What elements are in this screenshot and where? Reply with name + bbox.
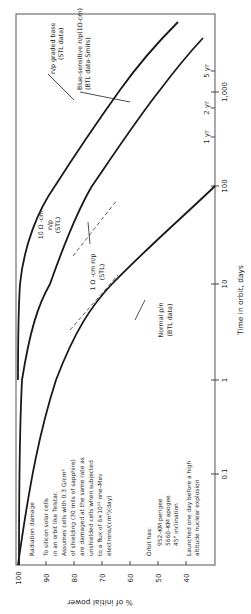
arrow-blue (80, 92, 130, 102)
label-graded-1: n/p graded base (49, 22, 57, 74)
radiation-line: are damaged at the same rate as (79, 457, 86, 556)
radiation-line: in an orbit like Telstar. (52, 491, 58, 556)
curve-1ohm-np (19, 38, 203, 565)
x-tick-10: 10 (221, 280, 229, 289)
x-tick-labels: 0.1 1 10 100 1,000 1 yr 2 yr 5 yr (203, 64, 229, 480)
radiation-line: of shielding (30 mils of sapphire) (70, 459, 77, 556)
orbit-line: 45° inclination (173, 503, 179, 546)
x-tick-1: 1 (221, 378, 229, 382)
radiation-notes: Radiation damage To silicon solar cells … (29, 457, 201, 557)
curve-10ohm-np (18, 22, 178, 380)
y-tick-70: 70 (99, 574, 107, 583)
y-axis (46, 561, 186, 565)
orbit-title: Orbit has: (146, 527, 152, 556)
label-10ohm-3: (STL) (54, 217, 61, 233)
x-tick-2yr: 2 yr (203, 101, 211, 115)
arrow-graded (48, 74, 74, 100)
arrow-normal (135, 300, 145, 320)
orbit-line: 952–KM perigee (157, 498, 164, 546)
y-tick-100: 100 (15, 571, 23, 584)
y-tick-90: 90 (43, 574, 51, 583)
x-tick-5yr: 5 yr (203, 64, 211, 78)
label-1ohm-1: 1 Ω -cm n/p (89, 254, 97, 291)
label-normal-2: (BTL data) (166, 304, 173, 337)
chart-canvas: 0.1 1 10 100 1,000 1 yr 2 yr 5 yr Time i… (0, 0, 251, 614)
y-tick-80: 80 (71, 574, 79, 583)
x-tick-0.1: 0.1 (221, 468, 229, 479)
label-1ohm-2: (STL) (98, 264, 105, 280)
orbit-line: 5660–KM apogee (165, 495, 172, 546)
radiation-line: to a flux of 6×10¹² one–Mev (97, 473, 103, 556)
radiation-line: To silicon solar cells (43, 498, 49, 557)
y-axis-label: % of initial power (66, 598, 132, 607)
y-tick-40: 40 (183, 574, 191, 583)
launch-line: Launched one day before a high (186, 460, 193, 556)
y-tick-60: 60 (127, 574, 135, 583)
y-tick-labels: 100 90 80 70 60 50 40 (15, 571, 191, 584)
radiation-line: Assumes cells with 0.3 G/cm² (61, 469, 67, 556)
label-blue-2: (BTL data-Smits) (84, 37, 91, 90)
label-normal-1: Normal p/n (157, 303, 165, 338)
x-tick-1yr: 1 yr (203, 130, 211, 144)
label-arrows (48, 74, 145, 320)
label-graded-2: (STL data) (57, 28, 64, 60)
launch-line: altitude nuclear explosion (194, 479, 201, 556)
curve-labels: n/p graded base (STL data) Blue-sensitiv… (37, 8, 173, 337)
x-tick-1000: 1,000 (221, 82, 229, 102)
y-tick-50: 50 (155, 574, 163, 583)
x-axis-label: Time in orbit, days (236, 265, 245, 336)
label-blue-1: Blue-sensitive n/p(1Ω-cm) (76, 8, 84, 90)
arrow-1ohm (88, 222, 90, 244)
radiation-line: unshielded cells when subjected (88, 460, 95, 556)
label-10ohm-1: 10 Ω -cm (37, 211, 44, 240)
radiation-title: Radiation damage (29, 502, 36, 556)
radiation-line: electrons/(cm²)(day) (106, 496, 113, 556)
x-tick-100: 100 (221, 179, 229, 192)
label-10ohm-2: n/p (46, 220, 54, 230)
